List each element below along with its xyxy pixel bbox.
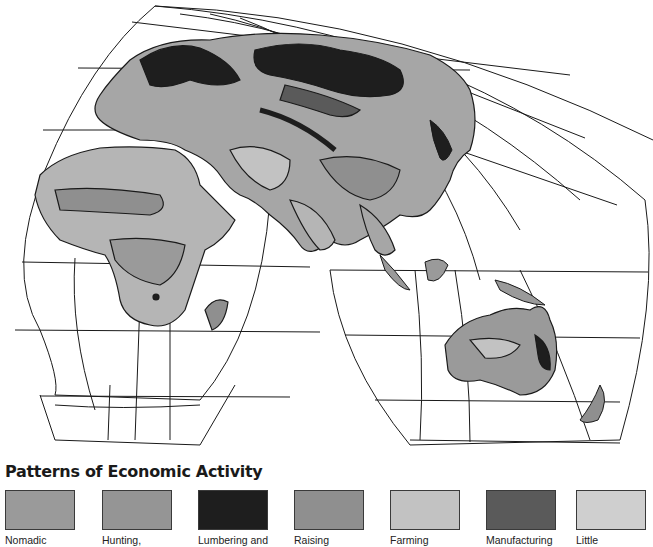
legend-swatch — [294, 490, 364, 530]
legend-label: Farming — [390, 534, 470, 546]
legend-item-raising: Raising — [294, 490, 374, 546]
legend-label: Little — [576, 534, 653, 546]
economic-activity-map — [0, 0, 653, 470]
legend-swatch — [5, 490, 75, 530]
legend-label: Raising — [294, 534, 374, 546]
legend-item-manufacturing: Manufacturing — [486, 490, 566, 546]
legend-item-nomadic: Nomadic — [5, 490, 85, 546]
legend-title: Patterns of Economic Activity — [5, 462, 262, 481]
legend-item-farming: Farming — [390, 490, 470, 546]
indonesia-landmass — [380, 255, 545, 305]
legend-swatch — [198, 490, 268, 530]
legend-swatch — [102, 490, 172, 530]
legend-label: Manufacturing — [486, 534, 566, 546]
legend-swatch — [486, 490, 556, 530]
legend-label: Hunting, — [102, 534, 182, 546]
legend-item-little: Little — [576, 490, 653, 546]
legend-label: Lumbering and — [198, 534, 278, 546]
legend-label: Nomadic — [5, 534, 85, 546]
legend-swatch — [390, 490, 460, 530]
legend-item-hunting: Hunting, — [102, 490, 182, 546]
africa-landmass — [35, 147, 235, 330]
legend-item-lumbering: Lumbering and — [198, 490, 278, 546]
new-zealand-landmass — [580, 385, 605, 423]
legend-swatch — [576, 490, 646, 530]
